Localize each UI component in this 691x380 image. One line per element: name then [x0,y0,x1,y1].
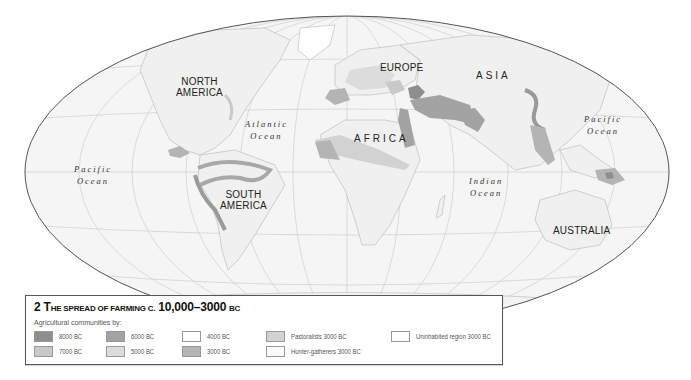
swatch-7000bc [34,346,53,357]
legend-item-7000bc: 7000 BC [34,345,86,357]
map-legend: 2The spread of farming c. 10,000–3000 bc… [25,295,503,365]
swatch-3000bc [182,346,201,357]
label-africa: AFRICA [354,133,409,144]
legend-title: 2The spread of farming c. 10,000–3000 bc [34,300,494,316]
label-asia: ASIA [476,70,511,81]
legend-item-8000bc: 8000 BC [34,330,86,342]
swatch-8000bc [34,331,53,342]
label-indian-ocean: Indian Ocean [469,175,503,199]
legend-subtitle: Agricultural communities by: [34,318,494,327]
legend-item-pastoralists: Pastoralists 3000 BC [266,330,356,342]
legend-item-3000bc: 3000 BC [182,345,234,357]
label-europe: EUROPE [380,62,423,73]
swatch-uninhabited [391,331,410,342]
legend-item-uninhabited: Uninhabited region 3000 BC [391,330,504,342]
swatch-5000bc [106,346,125,357]
legend-item-6000bc: 6000 BC [106,330,158,342]
label-australia: AUSTRALIA [553,225,610,236]
swatch-pastoralists [266,331,285,342]
swatch-4000bc [182,331,201,342]
label-pacific-ocean-east: Pacific Ocean [584,113,622,137]
label-pacific-ocean-west: Pacific Ocean [74,163,112,187]
legend-item-hunter-gatherers: Hunter-gatherers 3000 BC [266,345,373,357]
swatch-hunter-gatherers [266,346,285,357]
label-atlantic-ocean: Atlantic Ocean [245,118,288,142]
label-north-america: NORTH AMERICA [176,76,223,98]
legend-items: 8000 BC 7000 BC 6000 BC 5000 BC 4000 BC … [34,330,494,360]
legend-item-5000bc: 5000 BC [106,345,158,357]
swatch-6000bc [106,331,125,342]
label-south-america: SOUTH AMERICA [220,189,267,211]
legend-item-4000bc: 4000 BC [182,330,234,342]
